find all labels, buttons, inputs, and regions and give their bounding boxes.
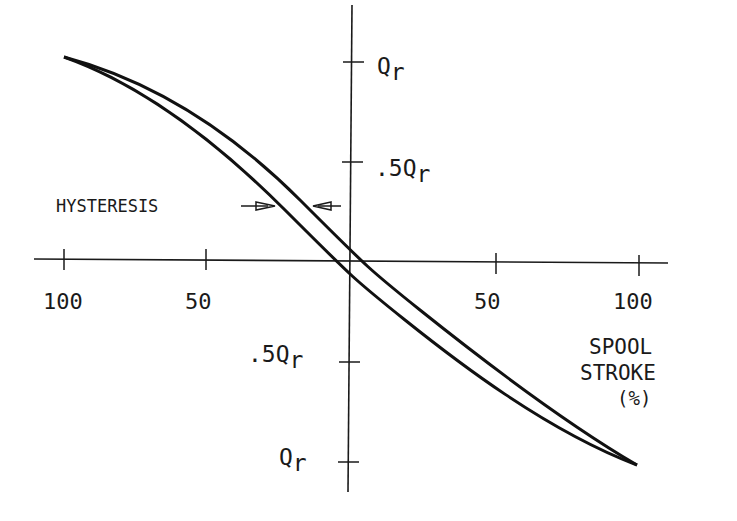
x-label-left-100: 100 xyxy=(43,289,83,314)
hysteresis-label: HYSTERESIS xyxy=(56,196,158,216)
x-axis xyxy=(34,259,668,263)
x-label-right-100: 100 xyxy=(613,289,653,314)
hysteresis-arrow-right-icon xyxy=(241,202,275,210)
hysteresis-arrow-left-icon xyxy=(313,202,341,210)
x-label-right-50: 50 xyxy=(474,289,501,314)
hysteresis-chart: Qr .5Qr .5Qr Qr 100 50 50 100 HYSTERESIS… xyxy=(0,0,737,521)
axis-title-stroke: STROKE xyxy=(580,361,656,385)
y-label-half-top: .5Qr xyxy=(375,155,430,187)
y-label-qr-bottom: Qr xyxy=(279,444,307,476)
y-label-half-bottom: .5Qr xyxy=(248,341,303,373)
axis-title-spool: SPOOL xyxy=(589,335,652,359)
y-label-qr-top: Qr xyxy=(377,53,405,85)
x-label-left-50: 50 xyxy=(185,289,212,314)
axis-title-percent: (%) xyxy=(617,387,651,409)
